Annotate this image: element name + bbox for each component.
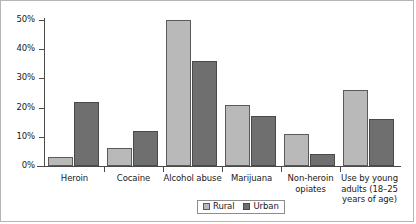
bar-urban: [369, 119, 394, 166]
bar-rural: [284, 134, 309, 166]
legend-entry-rural: Rural: [203, 202, 234, 211]
y-axis-tick-label: 20%: [16, 103, 35, 112]
y-axis-tick-label: 50%: [16, 15, 35, 24]
bar-rural: [166, 20, 191, 166]
y-axis-tick-label: 10%: [16, 132, 35, 141]
bar-group: [104, 20, 163, 166]
x-axis-category-label: Use by youngadults (18–25years of age): [332, 173, 407, 205]
y-axis-tick-label: 40%: [16, 44, 35, 53]
legend-label: Rural: [213, 202, 234, 211]
bar-urban: [133, 131, 158, 166]
y-axis-tick-mark: [39, 166, 45, 167]
bar-rural: [225, 105, 250, 166]
chart-legend: RuralUrban: [197, 200, 285, 214]
bar-group: [340, 20, 399, 166]
legend-swatch-icon: [203, 203, 210, 210]
plot-area: [45, 20, 399, 166]
bar-urban: [310, 154, 335, 166]
bar-group: [222, 20, 281, 166]
bar-rural: [48, 157, 73, 166]
x-axis-line: [37, 166, 401, 167]
bar-group: [45, 20, 104, 166]
bar-chart: 0%10%20%30%40%50% HeroinCocaineAlcohol a…: [0, 0, 414, 222]
x-axis-tick-mark: [104, 167, 105, 172]
bar-group: [281, 20, 340, 166]
legend-label: Urban: [253, 202, 278, 211]
legend-entry-urban: Urban: [243, 202, 278, 211]
x-axis-tick-mark: [281, 167, 282, 172]
x-axis-tick-mark: [222, 167, 223, 172]
bar-urban: [192, 61, 217, 166]
bar-group: [163, 20, 222, 166]
bar-urban: [251, 116, 276, 166]
x-axis-tick-mark: [163, 167, 164, 172]
legend-swatch-icon: [243, 203, 250, 210]
bar-urban: [74, 102, 99, 166]
x-axis-tick-mark: [340, 167, 341, 172]
y-axis-tick-label: 30%: [16, 73, 35, 82]
y-axis-tick-label: 0%: [22, 161, 35, 170]
bar-rural: [107, 148, 132, 166]
bar-rural: [343, 90, 368, 166]
